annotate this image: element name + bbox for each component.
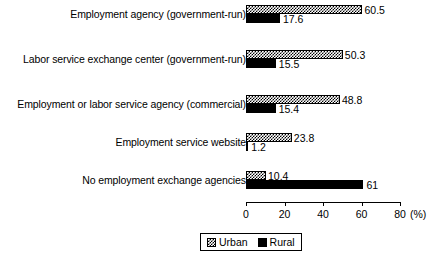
legend-label-urban: Urban (219, 236, 248, 248)
x-axis-tick-0 (246, 202, 247, 206)
rural-value-2: 15.4 (279, 103, 299, 114)
x-axis-tick-80 (400, 202, 401, 206)
x-axis: 020406080 (246, 202, 400, 203)
rural-value-3: 1.2 (251, 141, 266, 152)
x-axis-tick-label-40: 40 (317, 208, 329, 220)
chart-legend: Urban Rural (200, 233, 302, 251)
bar-group-3: 23.8 1.2 (246, 133, 292, 151)
x-axis-tick-20 (285, 202, 286, 206)
legend-item-rural: Rural (258, 236, 295, 248)
rural-bar-2: 15.4 (246, 104, 276, 113)
category-label-2: Employment or labor service agency (comm… (17, 98, 246, 110)
bar-group-2: 48.8 15.4 (246, 95, 340, 113)
category-label-3: Employment service website (116, 136, 246, 148)
x-axis-tick-label-60: 60 (356, 208, 368, 220)
x-axis-tick-label-0: 0 (243, 208, 249, 220)
rural-swatch-icon (258, 238, 267, 247)
bar-group-1: 50.3 15.5 (246, 50, 343, 68)
urban-bar-4: 10.4 (246, 171, 266, 180)
legend-item-urban: Urban (207, 236, 248, 248)
x-axis-tick-label-80: 80 (394, 208, 406, 220)
chart-row-3: Employment service website 23.8 1.2 (0, 128, 448, 166)
horizontal-bar-chart: Employment agency (government-run) 60.5 … (0, 0, 448, 265)
chart-row-2: Employment or labor service agency (comm… (0, 90, 448, 128)
rural-bar-0: 17.6 (246, 14, 280, 23)
category-label-1: Labor service exchange center (governmen… (23, 53, 246, 65)
urban-bar-0: 60.5 (246, 5, 362, 14)
legend-label-rural: Rural (270, 236, 295, 248)
category-label-4: No employment exchange agencies (82, 174, 246, 186)
urban-value-3: 23.8 (294, 132, 314, 143)
urban-value-1: 50.3 (345, 49, 365, 60)
rural-value-0: 17.6 (283, 13, 303, 24)
rural-bar-3: 1.2 (246, 142, 248, 151)
chart-row-0: Employment agency (government-run) 60.5 … (0, 0, 448, 38)
x-axis-tick-label-20: 20 (279, 208, 291, 220)
chart-row-4: No employment exchange agencies 10.4 61 (0, 166, 448, 204)
bar-group-4: 10.4 61 (246, 171, 363, 189)
x-axis-tick-60 (362, 202, 363, 206)
bar-group-0: 60.5 17.6 (246, 5, 362, 23)
rural-bar-1: 15.5 (246, 59, 276, 68)
x-axis-tick-40 (323, 202, 324, 206)
urban-value-0: 60.5 (364, 4, 384, 15)
rural-value-1: 15.5 (279, 58, 299, 69)
x-axis-unit-label: (%) (410, 208, 426, 220)
rural-bar-4: 61 (246, 180, 363, 189)
urban-value-2: 48.8 (342, 94, 362, 105)
category-label-0: Employment agency (government-run) (70, 8, 246, 20)
chart-row-1: Labor service exchange center (governmen… (0, 45, 448, 83)
urban-swatch-icon (207, 238, 216, 247)
rural-value-4: 61 (366, 179, 378, 190)
